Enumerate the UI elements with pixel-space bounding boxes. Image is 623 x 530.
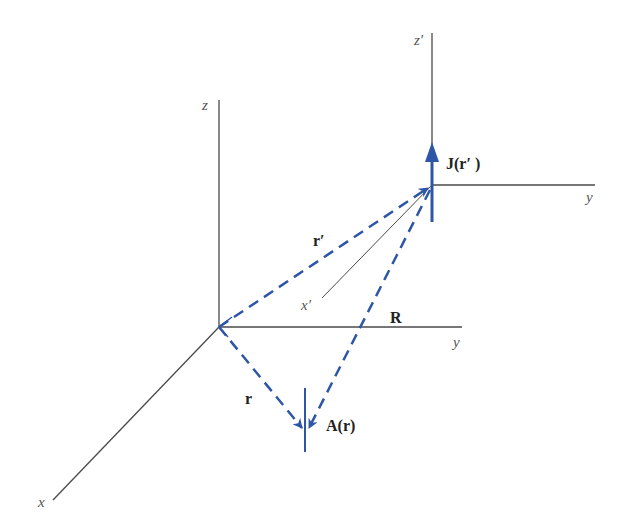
r-prime-label: r′ bbox=[313, 232, 325, 249]
y-axis-label: y bbox=[451, 334, 460, 350]
r-label: r bbox=[245, 390, 252, 407]
R-label: R bbox=[390, 309, 402, 326]
x-axis bbox=[53, 327, 219, 500]
vector-potential-label: A(r) bbox=[326, 417, 355, 435]
origin-axes: z y x bbox=[37, 97, 462, 510]
y-prime-axis-label: y bbox=[584, 189, 593, 205]
current-density-label: J(r′ ) bbox=[446, 155, 480, 173]
r-vector bbox=[219, 327, 302, 428]
source-axes: z′ y x′ bbox=[300, 32, 595, 313]
current-density-arrowhead bbox=[425, 142, 439, 162]
vector-potential-diagram: z y x z′ y x′ J(r′ ) A(r) r′ r R bbox=[0, 0, 623, 530]
current-density: J(r′ ) bbox=[425, 142, 480, 222]
x-axis-label: x bbox=[37, 494, 45, 510]
x-prime-axis-label: x′ bbox=[300, 297, 312, 313]
x-prime-axis bbox=[322, 185, 432, 298]
z-prime-axis-label: z′ bbox=[413, 32, 424, 48]
z-axis-label: z bbox=[201, 97, 208, 113]
